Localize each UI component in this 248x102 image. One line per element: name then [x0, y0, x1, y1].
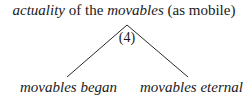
- child-node-right: movables eternal: [140, 79, 243, 96]
- branch-number-label: (4): [112, 30, 142, 46]
- child-node-left: movables began: [20, 79, 117, 96]
